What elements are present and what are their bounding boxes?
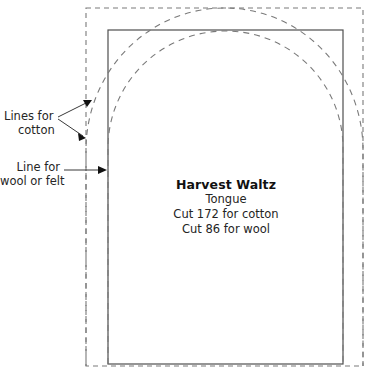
pattern-title: Harvest Waltz: [146, 177, 306, 192]
annotation-cotton-line2: cotton: [4, 123, 55, 137]
pattern-part-name: Tongue: [146, 192, 306, 207]
annotation-wool-line2: wool or felt: [0, 174, 60, 188]
annotation-wool-line1: Line for: [0, 160, 60, 174]
pattern-piece-text-block: Harvest Waltz Tongue Cut 172 for cotton …: [146, 177, 306, 237]
pattern-cut-cotton: Cut 172 for cotton: [146, 207, 306, 222]
annotation-cotton-line1: Lines for: [4, 109, 55, 123]
pattern-cut-wool: Cut 86 for wool: [146, 222, 306, 237]
arrowhead-wool: [98, 166, 107, 174]
pattern-sheet: Lines for cotton Line for wool or felt H…: [0, 0, 371, 373]
arrowhead-cotton-lower: [78, 133, 86, 141]
annotation-lines-for-cotton: Lines for cotton: [4, 109, 55, 137]
annotation-line-for-wool: Line for wool or felt: [0, 160, 60, 188]
